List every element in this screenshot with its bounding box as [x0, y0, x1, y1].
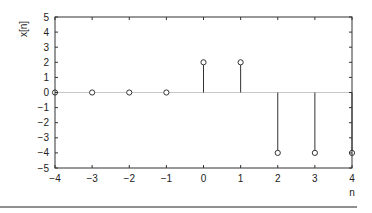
- y-tick-label: 2: [43, 57, 49, 68]
- stem-plot: −4−3−2−101234 543210−1−2−3−4−5 n x[n]: [0, 0, 372, 213]
- y-tick-label: 3: [43, 42, 49, 53]
- open-circle-marker: [90, 90, 95, 95]
- y-tick-label: 1: [43, 72, 49, 83]
- y-tick-label: 5: [43, 12, 49, 23]
- x-tick-label: 3: [312, 173, 318, 184]
- stem-point: [312, 93, 317, 156]
- open-circle-marker: [238, 60, 243, 65]
- open-circle-marker: [201, 60, 206, 65]
- y-tick-label: 4: [43, 27, 49, 38]
- x-axis-label: n: [349, 187, 355, 198]
- y-tick-label: −4: [38, 147, 50, 158]
- x-tick-label: −4: [49, 173, 61, 184]
- stem-point: [238, 60, 243, 93]
- y-tick-label: −1: [38, 102, 50, 113]
- y-axis-label: x[n]: [18, 21, 29, 37]
- x-tick-label: 2: [275, 173, 281, 184]
- y-tick-label: −2: [38, 117, 50, 128]
- x-tick-label: −3: [86, 173, 98, 184]
- x-tick-label: −2: [124, 173, 136, 184]
- stem-point: [164, 90, 169, 95]
- x-tick-label: 4: [349, 173, 355, 184]
- x-tick-label: 1: [238, 173, 244, 184]
- stem-point: [90, 90, 95, 95]
- y-tick-label: −5: [38, 163, 50, 174]
- open-circle-marker: [164, 90, 169, 95]
- y-tick-label: 0: [43, 87, 49, 98]
- y-tick-label: −3: [38, 132, 50, 143]
- x-axis-ticks: −4−3−2−101234: [49, 17, 355, 184]
- open-circle-marker: [312, 150, 317, 155]
- x-tick-label: −1: [161, 173, 173, 184]
- stem-point: [127, 90, 132, 95]
- stem-point: [201, 60, 206, 93]
- stems: [52, 60, 354, 156]
- x-tick-label: 0: [201, 173, 207, 184]
- open-circle-marker: [127, 90, 132, 95]
- stem-point: [275, 93, 280, 156]
- open-circle-marker: [275, 150, 280, 155]
